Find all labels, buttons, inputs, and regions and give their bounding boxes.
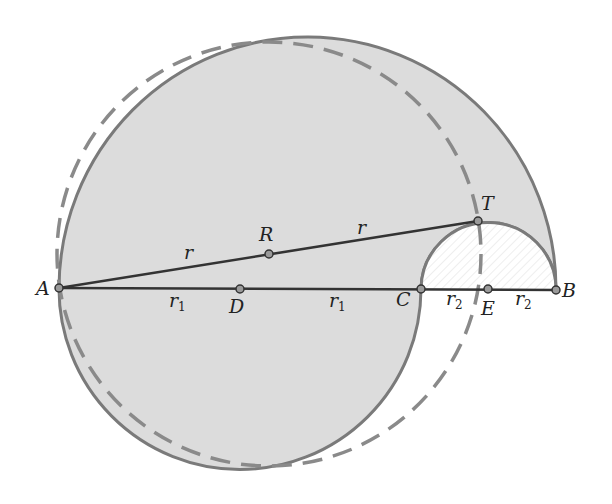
- point-T: [474, 217, 482, 225]
- point-A: [55, 284, 63, 292]
- label-D: D: [228, 295, 244, 317]
- point-B: [552, 286, 560, 294]
- point-C: [417, 285, 425, 293]
- label-A: A: [34, 277, 50, 299]
- label-T: T: [481, 192, 495, 214]
- label-C: C: [396, 288, 411, 310]
- label-R: R: [258, 223, 273, 245]
- label-E: E: [480, 297, 495, 319]
- point-R: [265, 250, 273, 258]
- arbelos-diagram: A R T D C E B r r r1 r1 r2 r2: [0, 0, 612, 504]
- label-B: B: [561, 279, 576, 301]
- point-D: [236, 285, 244, 293]
- point-E: [484, 285, 492, 293]
